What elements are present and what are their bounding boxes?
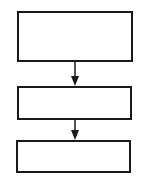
arrow-down-icon [70, 62, 80, 86]
arrow-down-icon [70, 120, 80, 140]
flow-box-3 [16, 140, 131, 173]
flow-box-2 [17, 86, 132, 120]
flow-box-1 [17, 11, 133, 62]
